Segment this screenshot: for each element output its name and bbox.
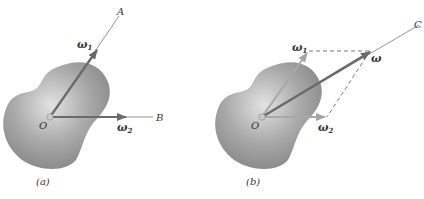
label-omega1: ω1 xyxy=(77,38,92,52)
label-origin: O xyxy=(251,120,259,131)
panel-a: A B O ω1 ω2 (a) xyxy=(3,6,163,187)
rigid-body-shape xyxy=(215,62,322,169)
label-a: A xyxy=(116,6,124,17)
rigid-body-shape xyxy=(3,62,110,169)
parallelogram-dash-right xyxy=(327,51,370,117)
origin-pivot xyxy=(259,114,265,120)
label-c: C xyxy=(414,19,422,30)
label-b: B xyxy=(155,112,163,123)
panel-b: C ω ω1 ω2 O (b) xyxy=(215,19,422,187)
label-origin: O xyxy=(39,120,47,131)
label-omega: ω xyxy=(371,52,382,65)
origin-pivot xyxy=(47,114,53,120)
vector-addition-diagram: A B O ω1 ω2 (a) C ω ω1 ω2 O (b) xyxy=(0,0,424,199)
caption-a: (a) xyxy=(36,176,50,187)
label-omega2: ω2 xyxy=(117,121,132,135)
label-omega2: ω2 xyxy=(318,121,333,135)
label-omega1: ω1 xyxy=(292,41,307,55)
caption-b: (b) xyxy=(246,176,260,187)
